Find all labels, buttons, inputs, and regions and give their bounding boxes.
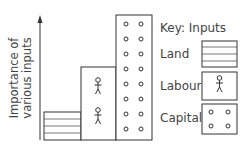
inputs-diagram: Importance of various inputs Key: Inputs <box>0 0 250 153</box>
bar-land <box>44 112 81 140</box>
bar-labour <box>81 67 116 140</box>
y-axis-label: Importance of various inputs <box>7 37 34 119</box>
legend-swatch-capital <box>202 104 237 134</box>
legend-label-labour: Labour <box>160 79 202 93</box>
legend-swatch-land <box>202 41 237 67</box>
y-axis <box>38 15 43 140</box>
legend-label-capital: Capital <box>160 111 202 125</box>
legend-title: Key: Inputs <box>160 21 226 35</box>
svg-text:various inputs: various inputs <box>20 37 34 118</box>
axis-arrow-icon <box>38 15 43 23</box>
bar-capital <box>116 15 152 140</box>
legend-swatch-labour <box>202 72 237 100</box>
legend: Key: Inputs Land Labour Capital <box>160 21 237 134</box>
legend-label-land: Land <box>160 47 189 61</box>
svg-text:Importance of: Importance of <box>7 37 21 119</box>
